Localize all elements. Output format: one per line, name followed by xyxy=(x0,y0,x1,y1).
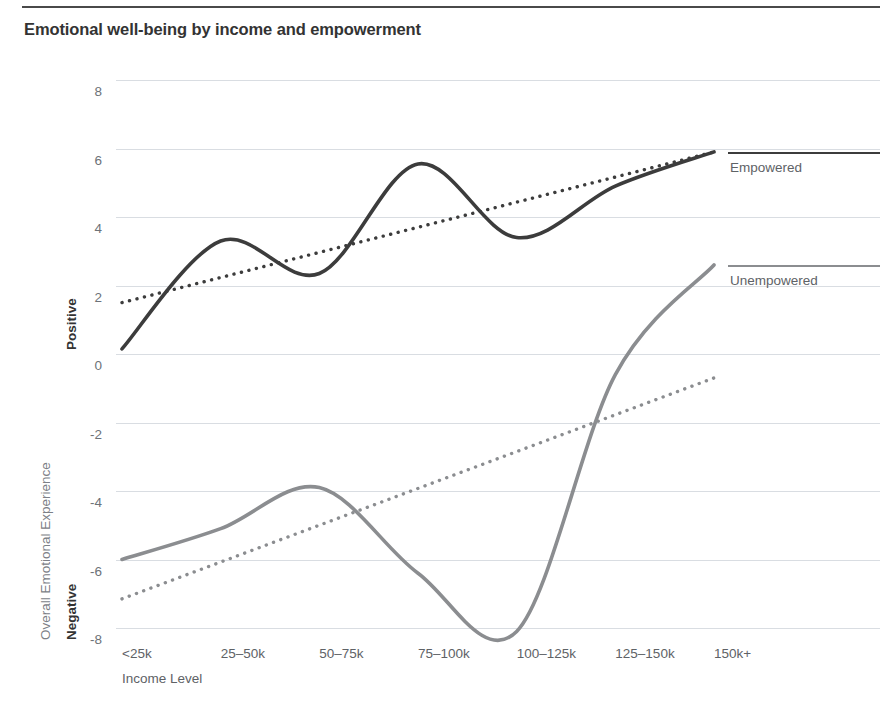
y-tick-label: -8 xyxy=(62,632,102,647)
legend-swatch xyxy=(728,265,880,268)
x-tick-label: 100–125k xyxy=(517,646,576,661)
y-tick-label: -4 xyxy=(62,495,102,510)
legend-swatch xyxy=(728,152,880,155)
y-tick-label: 8 xyxy=(62,84,102,99)
series-line-unempowered xyxy=(122,265,714,640)
plot-area xyxy=(122,80,714,628)
y-tick-label: 4 xyxy=(62,221,102,236)
x-tick-label: 75–100k xyxy=(418,646,470,661)
y-tick-label: 2 xyxy=(62,290,102,305)
y-axis-title: Overall Emotional Experience xyxy=(38,462,53,640)
series-line-empowered xyxy=(122,152,714,349)
top-divider xyxy=(22,6,880,8)
x-tick-label: 25–50k xyxy=(221,646,265,661)
legend-label: Empowered xyxy=(730,160,802,175)
legend-label: Unempowered xyxy=(730,273,818,288)
x-tick-label: <25k xyxy=(122,646,152,661)
gridline xyxy=(116,628,880,629)
x-tick-label: 125–150k xyxy=(615,646,674,661)
y-tick-label: -6 xyxy=(62,564,102,579)
y-tick-label: -2 xyxy=(62,427,102,442)
y-tick-label: 6 xyxy=(62,153,102,168)
page-title: Emotional well-being by income and empow… xyxy=(24,20,421,39)
x-tick-label: 50–75k xyxy=(319,646,363,661)
y-tick-label: 0 xyxy=(62,358,102,373)
chart-page: Emotional well-being by income and empow… xyxy=(0,0,895,712)
series-line-empowered-trend xyxy=(122,152,714,303)
series-layer xyxy=(122,80,714,628)
y-axis-positive-label: Positive xyxy=(64,298,79,350)
series-line-unempowered-trend xyxy=(122,378,714,599)
x-tick-label: 150k+ xyxy=(714,646,751,661)
x-axis-title: Income Level xyxy=(122,671,202,686)
